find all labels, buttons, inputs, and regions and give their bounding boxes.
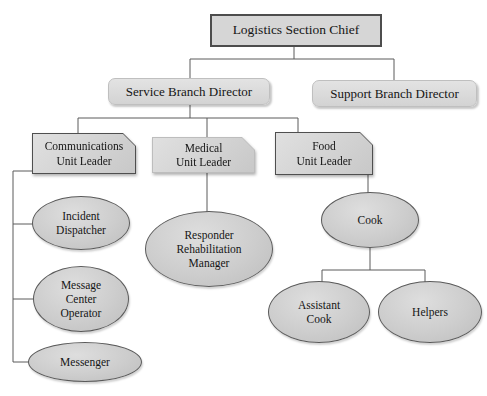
node-label: Responder Rehabilitation Manager [174, 228, 243, 270]
node-label: Service Branch Director [124, 84, 254, 100]
tab-face: Medical Unit Leader [153, 138, 254, 172]
node-cook: Cook [321, 192, 419, 248]
node-label: Communications Unit Leader [43, 139, 126, 167]
node-messenger: Messenger [28, 342, 142, 382]
node-label: Cook [356, 213, 385, 227]
tab-border: Communications Unit Leader [32, 133, 136, 174]
node-support-branch-director: Support Branch Director [312, 80, 477, 107]
node-food-unit-leader: Food Unit Leader [275, 132, 373, 175]
tab-face: Communications Unit Leader [33, 134, 135, 173]
node-service-branch-director: Service Branch Director [108, 78, 270, 105]
node-label: Message Center Operator [59, 278, 104, 320]
node-label: Logistics Section Chief [231, 22, 362, 38]
node-label: Medical Unit Leader [174, 141, 233, 169]
node-communications-unit-leader: Communications Unit Leader [32, 133, 136, 174]
node-assistant-cook: Assistant Cook [268, 281, 370, 343]
node-label: Incident Dispatcher [54, 209, 108, 237]
node-logistics-section-chief: Logistics Section Chief [210, 14, 382, 47]
node-responder-rehabilitation-manager: Responder Rehabilitation Manager [145, 211, 273, 287]
tab-border: Food Unit Leader [275, 132, 373, 175]
node-message-center-operator: Message Center Operator [33, 266, 129, 332]
tab-face: Food Unit Leader [276, 133, 372, 174]
node-incident-dispatcher: Incident Dispatcher [32, 196, 130, 250]
node-medical-unit-leader: Medical Unit Leader [152, 137, 255, 173]
node-label: Helpers [410, 305, 450, 319]
org-chart: Logistics Section Chief Service Branch D… [0, 0, 487, 396]
node-label: Assistant Cook [296, 298, 342, 326]
tab-border: Medical Unit Leader [152, 137, 255, 173]
node-helpers: Helpers [378, 281, 482, 343]
node-label: Food Unit Leader [294, 139, 353, 167]
node-label: Support Branch Director [328, 86, 461, 102]
node-label: Messenger [58, 355, 112, 369]
